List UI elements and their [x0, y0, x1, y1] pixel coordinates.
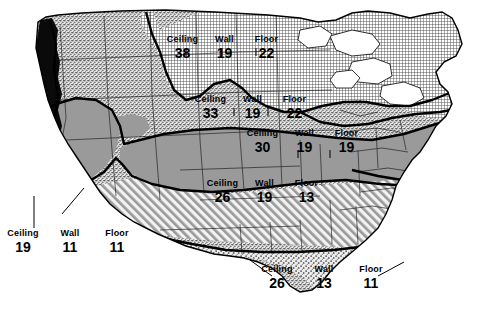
value-floor: 11	[98, 239, 136, 255]
label-ceiling: Ceiling	[258, 264, 296, 275]
label-wall: Wall	[51, 228, 89, 239]
value-ceiling: 38	[166, 45, 199, 61]
value-ceiling: 26	[258, 275, 296, 291]
value-floor: 11	[352, 275, 390, 291]
label-ceiling: Ceiling	[194, 94, 227, 105]
zone-label-upper-mountain: Ceiling Wall Floor 33 19 22	[194, 94, 311, 121]
label-floor: Floor	[250, 34, 283, 45]
label-ceiling: Ceiling	[246, 128, 279, 139]
value-wall: 11	[51, 239, 89, 255]
label-wall: Wall	[248, 178, 281, 189]
value-ceiling: 19	[4, 239, 42, 255]
label-ceiling: Ceiling	[4, 228, 42, 239]
label-floor: Floor	[278, 94, 311, 105]
zone-label-gulf-south: Ceiling Wall Floor 26 13 11	[258, 264, 390, 291]
value-wall: 19	[288, 139, 321, 155]
value-floor: 19	[330, 139, 363, 155]
value-wall: 13	[305, 275, 343, 291]
zone-label-central-band: Ceiling Wall Floor 30 19 19	[246, 128, 363, 155]
label-wall: Wall	[288, 128, 321, 139]
value-wall: 19	[208, 45, 241, 61]
value-ceiling: 33	[194, 105, 227, 121]
value-ceiling: 30	[246, 139, 279, 155]
zone-label-pacific-coast: Ceiling Wall Floor 19 11 11	[4, 228, 136, 255]
zone-label-north-central: Ceiling Wall Floor 38 19 22	[166, 34, 283, 61]
label-wall: Wall	[208, 34, 241, 45]
zone-label-south-central: Ceiling Wall Floor 26 19 13	[206, 178, 323, 205]
leader-pacific-2	[62, 188, 84, 214]
value-floor: 22	[278, 105, 311, 121]
value-wall: 19	[236, 105, 269, 121]
value-floor: 22	[250, 45, 283, 61]
value-ceiling: 26	[206, 189, 239, 205]
label-floor: Floor	[98, 228, 136, 239]
label-floor: Floor	[352, 264, 390, 275]
insulation-zone-map: Ceiling Wall Floor 38 19 22 Ceiling Wall…	[0, 0, 478, 309]
label-floor: Floor	[290, 178, 323, 189]
value-wall: 19	[248, 189, 281, 205]
label-floor: Floor	[330, 128, 363, 139]
label-ceiling: Ceiling	[166, 34, 199, 45]
label-wall: Wall	[305, 264, 343, 275]
value-floor: 13	[290, 189, 323, 205]
label-ceiling: Ceiling	[206, 178, 239, 189]
label-wall: Wall	[236, 94, 269, 105]
